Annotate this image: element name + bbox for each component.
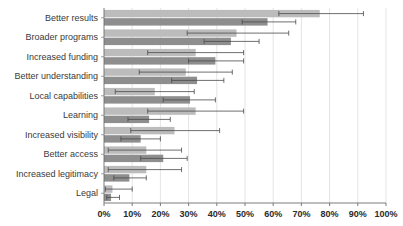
category-label-5: Learning [63, 110, 98, 120]
category-label-6: Increased visibility [25, 130, 99, 140]
xtick-labels-group: 0%10%20%30%40%50%60%70%80%90%100% [97, 209, 397, 219]
xtick-label-2: 20% [151, 209, 169, 219]
category-label-1: Broader programs [25, 32, 98, 42]
xtick-label-8: 80% [321, 209, 339, 219]
category-label-4: Local capabilities [29, 91, 98, 101]
category-label-7: Better access [43, 149, 98, 159]
category-label-3: Better understanding [14, 71, 98, 81]
xtick-label-0: 0% [97, 209, 110, 219]
category-label-2: Increased funding [26, 52, 98, 62]
chart-canvas: Better resultsBroader programsIncreased … [0, 0, 403, 226]
bars-group [104, 10, 320, 201]
xtick-label-7: 70% [292, 209, 310, 219]
grouped-bar-chart: Better resultsBroader programsIncreased … [0, 0, 403, 226]
category-label-0: Better results [45, 13, 99, 23]
category-label-9: Legal [76, 188, 98, 198]
xtick-label-9: 90% [349, 209, 367, 219]
xtick-label-1: 10% [123, 209, 141, 219]
category-label-8: Increased legitimacy [16, 169, 99, 179]
gridlines-group [132, 8, 386, 203]
xtick-label-10: 100% [374, 209, 397, 219]
xtick-label-4: 40% [208, 209, 226, 219]
category-labels-group: Better resultsBroader programsIncreased … [14, 13, 98, 199]
xtick-label-5: 50% [236, 209, 254, 219]
xtick-label-3: 30% [180, 209, 198, 219]
xtick-label-6: 60% [264, 209, 282, 219]
